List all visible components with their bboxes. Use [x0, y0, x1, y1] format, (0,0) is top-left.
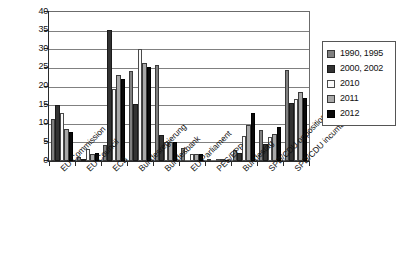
y-tick-label: 25: [6, 62, 48, 71]
y-tick-label: 0: [6, 156, 48, 165]
legend-item: 2010: [327, 76, 391, 91]
y-tick-label: 20: [6, 81, 48, 90]
bar: [251, 113, 255, 161]
legend-swatch-2010-icon: [327, 80, 335, 88]
x-tick-mark: [127, 161, 128, 166]
legend-item: 2011: [327, 91, 391, 106]
y-tick-label: 30: [6, 44, 48, 53]
bar-group: [231, 12, 257, 161]
x-tick-mark: [257, 161, 258, 166]
x-tick-mark: [75, 161, 76, 166]
x-tick-mark: [49, 161, 50, 166]
y-tick-label: 40: [6, 7, 48, 16]
bar-group: [75, 12, 101, 161]
bar-group: [127, 12, 153, 161]
chart-legend: 1990, 19952000, 2002201020112012: [322, 41, 396, 126]
y-tick-label: 35: [6, 25, 48, 34]
legend-label: 2011: [340, 94, 359, 103]
x-tick-mark: [309, 161, 310, 166]
bar-group: [49, 12, 75, 161]
legend-label: 2010: [340, 79, 359, 88]
bar: [121, 79, 125, 161]
bar: [173, 142, 177, 161]
bar-group: [101, 12, 127, 161]
bar-group: [205, 12, 231, 161]
bar: [147, 67, 151, 161]
legend-swatch-1990-1995-icon: [327, 50, 335, 58]
y-tick-label: 10: [6, 118, 48, 127]
bar: [69, 132, 73, 161]
x-tick-mark: [205, 161, 206, 166]
x-tick-mark: [101, 161, 102, 166]
x-tick-mark: [231, 161, 232, 166]
legend-label: 1990, 1995: [340, 49, 383, 58]
bar: [199, 154, 203, 161]
y-tick-label: 15: [6, 100, 48, 109]
x-tick-mark: [153, 161, 154, 166]
bar: [277, 127, 281, 161]
legend-item: 2000, 2002: [327, 61, 391, 76]
x-tick-mark: [283, 161, 284, 166]
legend-item: 1990, 1995: [327, 46, 391, 61]
bar-group: [257, 12, 283, 161]
bars-layer: [49, 12, 309, 161]
legend-label: 2000, 2002: [340, 64, 383, 73]
legend-label: 2012: [340, 109, 359, 118]
legend-swatch-2012-icon: [327, 110, 335, 118]
x-tick-mark: [179, 161, 180, 166]
bar-group: [153, 12, 179, 161]
bar: [303, 98, 307, 161]
y-axis: 0510152025303540: [0, 0, 48, 253]
bar: [225, 160, 229, 161]
bar: [95, 153, 99, 161]
bar-group: [283, 12, 309, 161]
bar: [181, 148, 185, 161]
bar: [207, 159, 211, 161]
legend-swatch-2000-2002-icon: [327, 65, 335, 73]
bar-chart: 0510152025303540 EU CommissionEU Council…: [0, 0, 407, 253]
bar-group: [179, 12, 205, 161]
legend-item: 2012: [327, 106, 391, 121]
legend-swatch-2011-icon: [327, 95, 335, 103]
y-tick-label: 5: [6, 137, 48, 146]
